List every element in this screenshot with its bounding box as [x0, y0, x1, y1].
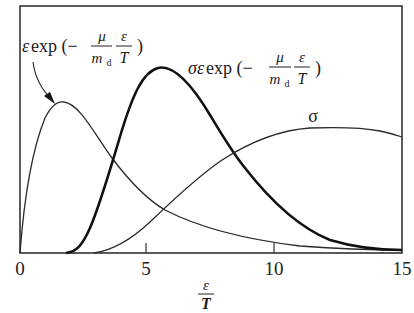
annotation2-md: m — [270, 71, 281, 87]
annotation1-arrow-head-icon — [44, 92, 55, 104]
annotation-eps-exp: εexp (− μ m d ε T ) — [22, 28, 143, 104]
annotation-sigma-eps-exp-prefix: σεexp (− — [188, 58, 253, 79]
annotation-eps-exp-prefix: εexp (− — [22, 36, 78, 57]
annotation1-md-subscript: d — [107, 57, 112, 68]
eps-symbol: ε — [22, 36, 30, 56]
curve-eps-exp — [20, 102, 402, 253]
annotation1-close-paren: ) — [137, 36, 143, 57]
exp-text: exp (− — [31, 36, 78, 57]
annotation1-mu: μ — [97, 28, 106, 44]
annotation2-md-subscript: d — [285, 78, 290, 89]
x-axis-label-numerator: ε — [203, 277, 209, 293]
annotation1-md: m — [92, 50, 103, 66]
x-axis-label: ε T — [198, 277, 214, 312]
sigma-eps-symbol: σε — [188, 58, 205, 78]
annotation1-T: T — [120, 49, 130, 66]
chart-canvas: 0 5 10 15 ε T εexp (− μ m d ε T ) σεexp … — [0, 0, 414, 313]
annotation2-eps: ε — [299, 49, 305, 65]
x-tick-label-5: 5 — [141, 258, 151, 279]
annotation2-close-paren: ) — [315, 58, 321, 79]
annotation2-mu: μ — [275, 49, 284, 65]
x-tick-label-10: 10 — [265, 258, 284, 279]
x-axis-label-denominator: T — [201, 295, 212, 312]
x-tick-label-15: 15 — [393, 258, 412, 279]
annotation-sigma: σ — [308, 106, 318, 126]
annotation2-T: T — [298, 70, 308, 87]
annotation1-eps: ε — [121, 28, 127, 44]
exp-text-2: exp (− — [206, 58, 253, 79]
curve-sigma-eps-exp — [66, 68, 402, 253]
annotation-sigma-eps-exp: σεexp (− μ m d ε T ) — [188, 49, 321, 89]
x-tick-label-0: 0 — [15, 258, 25, 279]
